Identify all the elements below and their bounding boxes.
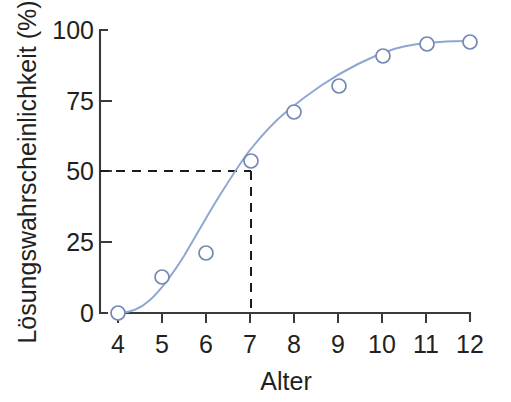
- data-point-age-5: [155, 270, 169, 284]
- y-tick-label-100: 100: [52, 16, 94, 44]
- x-tick-label-6: 6: [199, 330, 213, 358]
- y-axis-title: Lösungswahrscheinlichkeit (%): [13, 0, 41, 343]
- data-point-age-9: [332, 79, 346, 93]
- x-tick-label-10: 10: [368, 330, 396, 358]
- x-tick-label-9: 9: [331, 330, 345, 358]
- x-axis-title: Alter: [260, 367, 311, 395]
- x-tick-label-4: 4: [111, 330, 125, 358]
- fit-curve: [118, 41, 470, 313]
- data-point-age-4: [111, 306, 125, 320]
- x-tick-label-11: 11: [413, 330, 439, 358]
- data-point-age-10: [376, 49, 390, 63]
- y-tick-label-25: 25: [66, 228, 94, 256]
- plot-area: 100 75 50 25 0 4 5 6 7 8 9 10 11 12 Lösu…: [0, 0, 511, 402]
- data-point-age-7: [244, 154, 258, 168]
- y-tick-label-50: 50: [66, 157, 94, 185]
- data-point-age-12: [463, 35, 477, 49]
- y-tick-label-75: 75: [66, 87, 94, 115]
- x-tick-label-7: 7: [243, 330, 257, 358]
- x-tick-label-12: 12: [456, 330, 484, 358]
- data-point-age-6: [199, 246, 213, 260]
- x-tick-label-5: 5: [155, 330, 169, 358]
- data-point-age-8: [287, 105, 301, 119]
- x-tick-label-8: 8: [287, 330, 301, 358]
- data-point-age-11: [420, 37, 434, 51]
- chart-figure: 100 75 50 25 0 4 5 6 7 8 9 10 11 12 Lösu…: [0, 0, 511, 402]
- y-tick-label-0: 0: [80, 299, 94, 327]
